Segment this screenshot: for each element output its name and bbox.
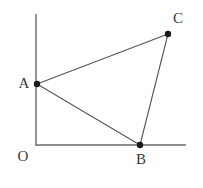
segment-a-b	[37, 84, 140, 145]
vertex-point-c	[165, 31, 171, 37]
segment-a-c	[37, 34, 168, 84]
vertex-label-a: A	[19, 76, 30, 91]
segment-b-c	[140, 34, 168, 145]
vertex-point-a	[34, 81, 40, 87]
vertex-point-b	[137, 142, 143, 148]
vertex-label-c: C	[173, 11, 183, 26]
vertex-label-b: B	[136, 152, 146, 167]
origin-label: O	[18, 149, 29, 164]
vertex-dots-group	[34, 31, 171, 148]
geometry-figure: O A B C	[0, 0, 203, 188]
diagram-canvas	[0, 0, 203, 188]
axes-group	[36, 14, 186, 146]
triangle-group	[37, 34, 168, 145]
